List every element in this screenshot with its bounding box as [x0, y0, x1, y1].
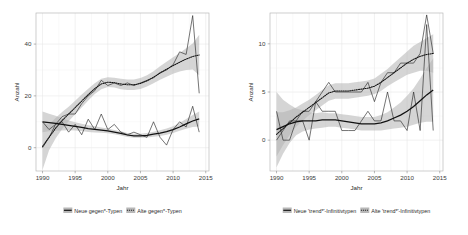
legend-label-alte[interactable]: Alte gegen*-Typen	[137, 208, 181, 214]
left-plot-svg: 199019952000200520102015 02040 Jahr Anza…	[0, 0, 234, 235]
chart-panel-left: 199019952000200520102015 02040 Jahr Anza…	[0, 0, 234, 235]
right-confidence-bands	[277, 34, 434, 167]
right-x-axis-title: Jahr	[350, 184, 362, 191]
x-tick-label: 1995	[302, 174, 316, 181]
x-tick-label: 2015	[199, 174, 213, 181]
legend-label-neue-trend[interactable]: Neue 'trend*'-Infinitivtypen	[294, 208, 357, 214]
right-x-tick-labels: 199019952000200520102015	[270, 174, 448, 181]
y-tick-label: 5	[262, 88, 266, 95]
y-tick-label: 20	[25, 92, 32, 99]
x-tick-label: 2015	[433, 174, 447, 181]
right-y-tick-labels: 0510	[259, 40, 266, 143]
legend-label-alte-trend[interactable]: Alte 'trend*'-Infinitivtypen	[371, 208, 430, 214]
x-tick-label: 2010	[400, 174, 414, 181]
left-legend: Neue gegen*-Typen Alte gegen*-Typen	[63, 208, 181, 214]
y-tick-label: 40	[25, 40, 32, 47]
left-plot-frame	[36, 13, 209, 171]
x-tick-label: 1990	[36, 174, 50, 181]
y-tick-label: 0	[262, 136, 266, 143]
x-tick-label: 2005	[134, 174, 148, 181]
right-y-axis-title: Anzahl	[247, 83, 254, 102]
right-legend: Neue 'trend*'-Infinitivtypen Alte 'trend…	[283, 208, 431, 214]
left-y-axis-title: Anzahl	[13, 83, 20, 102]
left-x-tick-labels: 199019952000200520102015	[36, 174, 214, 181]
x-tick-label: 2010	[166, 174, 180, 181]
right-plot-svg: 199019952000200520102015 0510 Jahr Anzah…	[234, 0, 468, 235]
x-tick-label: 2000	[101, 174, 115, 181]
left-gridlines	[36, 13, 209, 171]
x-tick-label: 2005	[368, 174, 382, 181]
x-tick-label: 1995	[68, 174, 82, 181]
left-y-tick-labels: 02040	[25, 40, 32, 151]
y-tick-label: 10	[259, 40, 266, 47]
left-x-axis-title: Jahr	[116, 184, 128, 191]
figure-canvas: 199019952000200520102015 02040 Jahr Anza…	[0, 0, 468, 235]
y-tick-label: 0	[28, 144, 32, 151]
x-tick-label: 2000	[335, 174, 349, 181]
legend-label-neue[interactable]: Neue gegen*-Typen	[74, 208, 122, 214]
left-confidence-bands	[43, 35, 200, 170]
chart-panel-right: 199019952000200520102015 0510 Jahr Anzah…	[234, 0, 468, 235]
x-tick-label: 1990	[270, 174, 284, 181]
